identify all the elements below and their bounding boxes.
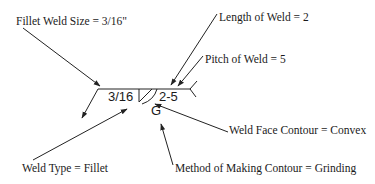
fillet-weld-size-label: Fillet Weld Size = 3/16"	[16, 15, 127, 27]
fillet-size-leader	[23, 28, 100, 86]
right-dimension: 2-5	[159, 89, 178, 104]
length-of-weld-label: Length of Weld = 2	[219, 11, 309, 24]
left-dimension: 3/16	[108, 89, 133, 104]
weld-type-label: Weld Type = Fillet	[22, 162, 109, 175]
method-leader	[161, 124, 173, 165]
weld-face-contour-label: Weld Face Contour = Convex	[229, 124, 366, 136]
tail-fork-icon	[190, 81, 197, 97]
pitch-of-weld-label: Pitch of Weld = 5	[205, 53, 286, 65]
pitch-leader	[178, 56, 203, 86]
contour-leader	[155, 104, 228, 132]
callout-labels: Fillet Weld Size = 3/16" Length of Weld …	[16, 11, 366, 175]
method-of-contour-label: Method of Making Contour = Grinding	[175, 162, 356, 175]
weld-type-leader	[33, 109, 127, 160]
weld-symbol: 3/16 2-5 G	[82, 81, 197, 118]
welding-symbol-diagram: 3/16 2-5 G Fillet Weld Size = 3/16" Leng…	[0, 0, 375, 184]
arrow-leader	[82, 89, 98, 118]
length-leader	[171, 14, 217, 85]
